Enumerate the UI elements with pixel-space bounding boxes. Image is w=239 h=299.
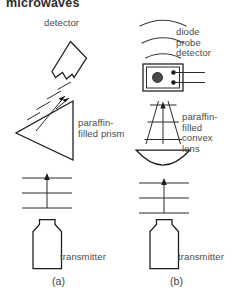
label-paraffin-filled-prism: paraffin- filled prism (78, 118, 125, 139)
label-diode-probe-detector: diode probe detector (176, 27, 211, 59)
caption-panel-b: (b) (170, 276, 183, 287)
page-banner-text: microwaves (6, 0, 80, 10)
label-detector-a: detector (44, 18, 79, 29)
converging-rays-b (145, 101, 183, 144)
caption-panel-a: (a) (52, 276, 65, 287)
horn-detector-icon (52, 42, 87, 80)
label-paraffin-filled-convex-lens: paraffin- filled convex lens (182, 112, 218, 154)
diode-probe-detector-icon (143, 64, 205, 91)
label-transmitter-a: transmitter (60, 252, 106, 263)
microwave-optics-figure: microwaves detector paraffin- filled pri… (0, 0, 239, 299)
wavefronts-b (139, 178, 189, 213)
label-transmitter-b: transmitter (178, 252, 224, 263)
panel-a-drawing (16, 42, 87, 269)
wavefronts-a (22, 173, 72, 208)
transmitter-horn-a (33, 220, 62, 269)
paraffin-prism-shape (16, 101, 73, 160)
transmitter-horn-b (150, 220, 179, 269)
